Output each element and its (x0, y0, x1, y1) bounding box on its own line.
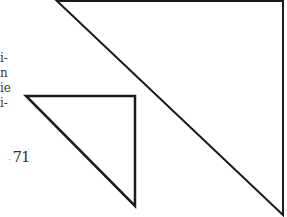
large-right-triangle (57, 1, 283, 215)
triangle-figure (0, 0, 287, 217)
small-right-triangle (26, 96, 135, 206)
